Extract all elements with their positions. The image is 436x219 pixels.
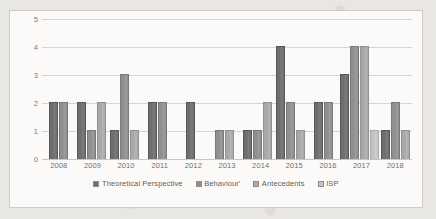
legend-swatch-icon	[93, 181, 99, 187]
bar[interactable]	[186, 102, 195, 159]
bar[interactable]	[120, 74, 129, 159]
x-axis-tick-label: 2018	[378, 161, 412, 170]
bar[interactable]	[286, 102, 295, 159]
bar[interactable]	[87, 130, 96, 159]
bar-group-2009	[75, 19, 108, 159]
x-axis-tick-label: 2015	[277, 161, 311, 170]
bar[interactable]	[391, 102, 400, 159]
bar-groups	[42, 19, 412, 159]
plot-area: 012345 200820092010201120122013201420152…	[26, 19, 412, 167]
bar[interactable]	[314, 102, 323, 159]
bar[interactable]	[77, 102, 86, 159]
bar[interactable]	[59, 102, 68, 159]
legend-item[interactable]: Antecedents	[253, 179, 304, 188]
gridline	[42, 159, 412, 160]
bar-group-2014	[241, 19, 274, 159]
legend-swatch-icon	[318, 181, 324, 187]
legend-swatch-icon	[253, 181, 259, 187]
bar-group-2010	[108, 19, 141, 159]
bar[interactable]	[97, 102, 106, 159]
bar[interactable]	[49, 102, 58, 159]
bar[interactable]	[276, 46, 285, 159]
bar-group-2018	[379, 19, 412, 159]
bar[interactable]	[401, 130, 410, 159]
bar-group-2011	[141, 19, 174, 159]
chart-container: 012345 200820092010201120122013201420152…	[9, 10, 423, 208]
bar[interactable]	[360, 46, 369, 159]
bar[interactable]	[158, 102, 167, 159]
legend-item-label: Antecedents	[262, 179, 305, 188]
x-axis-tick-label: 2014	[244, 161, 278, 170]
bar-group-2008	[42, 19, 75, 159]
bar-group-2015	[274, 19, 307, 159]
y-axis-tick-label: 5	[34, 15, 38, 24]
bar-group-2016	[307, 19, 340, 159]
bar-group-2013	[207, 19, 240, 159]
x-axis-tick-label: 2016	[311, 161, 345, 170]
x-axis-tick-label: 2010	[109, 161, 143, 170]
y-axis-tick-label: 2	[34, 99, 38, 108]
x-axis-tick-label: 2013	[210, 161, 244, 170]
x-axis-tick-label: 2011	[143, 161, 177, 170]
bar[interactable]	[243, 130, 252, 159]
x-axis-tick-label: 2009	[76, 161, 110, 170]
y-axis-tick-label: 4	[34, 43, 38, 52]
bar[interactable]	[253, 130, 262, 159]
bar[interactable]	[215, 130, 224, 159]
bar[interactable]	[296, 130, 305, 159]
y-axis-tick-label: 0	[34, 155, 38, 164]
legend-item-label: Behaviour'	[204, 179, 240, 188]
bar[interactable]	[340, 74, 349, 159]
x-axis-tick-label: 2012	[177, 161, 211, 170]
bar[interactable]	[263, 102, 272, 159]
x-axis-labels: 2008200920102011201220132014201520162017…	[42, 161, 412, 170]
y-axis-tick-label: 1	[34, 127, 38, 136]
bar[interactable]	[110, 130, 119, 159]
bar[interactable]	[324, 102, 333, 159]
legend-item-label: Theoretical Perspective	[102, 179, 183, 188]
legend-item[interactable]: Behaviour'	[196, 179, 241, 188]
x-axis-tick-label: 2008	[42, 161, 76, 170]
bar-group-2017	[340, 19, 379, 159]
legend-swatch-icon	[196, 181, 202, 187]
bar[interactable]	[148, 102, 157, 159]
legend-item[interactable]: ISP	[318, 179, 339, 188]
x-axis-tick-label: 2017	[345, 161, 379, 170]
chart-legend: Theoretical PerspectiveBehaviour'Anteced…	[10, 179, 422, 188]
bar[interactable]	[370, 130, 379, 159]
bar-group-2012	[174, 19, 207, 159]
legend-item-label: ISP	[326, 179, 338, 188]
y-axis-tick-label: 3	[34, 71, 38, 80]
bar[interactable]	[225, 130, 234, 159]
legend-item[interactable]: Theoretical Perspective	[93, 179, 182, 188]
y-axis-labels: 012345	[26, 19, 40, 159]
bar[interactable]	[381, 130, 390, 159]
bar[interactable]	[350, 46, 359, 159]
bar[interactable]	[130, 130, 139, 159]
